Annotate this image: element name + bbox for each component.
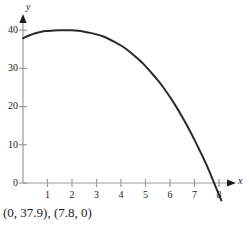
x-tick-label-6: 6 bbox=[163, 190, 177, 200]
x-axis-label: x bbox=[238, 176, 242, 186]
y-tick-label-40: 40 bbox=[0, 25, 18, 35]
y-tick-label-10: 10 bbox=[0, 140, 18, 150]
y-tick-label-30: 30 bbox=[0, 63, 18, 73]
x-tick-label-3: 3 bbox=[90, 190, 104, 200]
x-tick-label-7: 7 bbox=[188, 190, 202, 200]
data-curve bbox=[23, 30, 221, 200]
figure-root: 40 30 20 10 0 1 2 3 4 5 6 7 8 y x (0, 37… bbox=[0, 0, 249, 229]
x-axis-arrowhead bbox=[227, 179, 236, 186]
x-tick-label-8: 8 bbox=[212, 190, 226, 200]
y-axis-arrowhead bbox=[19, 14, 26, 23]
y-tick-label-0: 0 bbox=[0, 178, 18, 188]
figure-caption: (0, 37.9), (7.8, 0) bbox=[3, 205, 92, 221]
x-tick-label-4: 4 bbox=[114, 190, 128, 200]
x-tick-label-1: 1 bbox=[41, 190, 55, 200]
y-tick-label-20: 20 bbox=[0, 101, 18, 111]
y-axis-label: y bbox=[26, 2, 30, 12]
x-tick-label-2: 2 bbox=[65, 190, 79, 200]
x-tick-label-5: 5 bbox=[139, 190, 153, 200]
